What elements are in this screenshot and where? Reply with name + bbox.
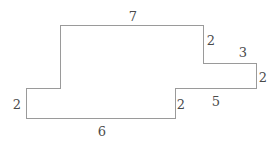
figure-canvas: 7 2 3 2 5 2 6 2 (0, 0, 278, 143)
dimension-label-top-edge: 7 (129, 10, 137, 23)
dimension-label-left-edge: 2 (13, 98, 21, 111)
dimension-label-lower-right-edge: 5 (212, 95, 220, 108)
dimension-label-bottom-edge: 6 (98, 125, 106, 138)
polygon-outline-path (26, 25, 256, 118)
dimension-label-middle-step-drop: 2 (177, 98, 185, 111)
dimension-label-right-top-edge: 3 (239, 46, 247, 59)
dimension-label-far-right-edge: 2 (259, 71, 267, 84)
polygon-shape (0, 0, 278, 143)
dimension-label-upper-right-drop: 2 (207, 34, 215, 47)
